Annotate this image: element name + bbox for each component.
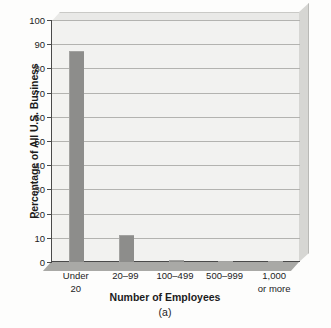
gridline-70 [52,93,300,94]
y-tick-label-90: 90 [34,39,45,50]
y-tick-label-20: 20 [34,208,45,219]
gridline-10 [52,238,300,239]
bar [218,261,233,262]
y-tick-80 [47,68,52,69]
y-tick-10 [47,238,52,239]
y-tick-60 [47,117,52,118]
gridline-100 [52,20,300,21]
bar [119,235,134,262]
y-tick-label-10: 10 [34,232,45,243]
bar [69,51,84,262]
chart-3d-right-face [299,3,309,262]
gridline-80 [52,68,300,69]
gridline-30 [52,189,300,190]
gridline-40 [52,165,300,166]
gridline-90 [52,44,300,45]
bar [268,261,283,262]
y-tick-label-40: 40 [34,160,45,171]
y-tick-0 [47,262,52,263]
bar [169,260,184,262]
figure-subtitle: (a) [51,306,279,318]
gridline-50 [52,141,300,142]
y-tick-label-0: 0 [40,257,45,268]
y-tick-label-30: 30 [34,184,45,195]
bar-chart-figure: Percentage of All U.S. Business 01020304… [0,0,331,328]
y-tick-70 [47,93,52,94]
y-tick-40 [47,165,52,166]
y-tick-90 [47,44,52,45]
plot-area: 0102030405060708090100 [51,20,299,262]
y-tick-label-60: 60 [34,111,45,122]
y-tick-label-80: 80 [34,63,45,74]
y-tick-label-70: 70 [34,87,45,98]
y-tick-label-50: 50 [34,136,45,147]
x-axis-title: Number of Employees [51,291,279,303]
gridline-60 [52,117,300,118]
plot-area-3d-wrapper: 0102030405060708090100 [51,20,299,262]
y-tick-50 [47,141,52,142]
y-tick-100 [47,20,52,21]
gridline-20 [52,214,300,215]
y-tick-20 [47,214,52,215]
y-tick-30 [47,189,52,190]
y-tick-label-100: 100 [29,15,45,26]
